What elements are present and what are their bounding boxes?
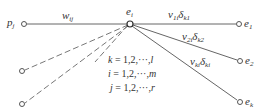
label-p-j: pj: [7, 17, 14, 30]
equation-k: k = 1,2,···,l: [108, 53, 153, 66]
node-e-i: [127, 21, 133, 27]
equation-j: j = 1,2,···,r: [110, 81, 155, 94]
node-p-j: [22, 22, 27, 27]
label-e-2: e2: [245, 55, 253, 68]
label-e-i: ei: [126, 6, 133, 19]
label-e-1: e1: [244, 18, 252, 31]
label-v-2i-delta-k2: v2iδk2: [182, 31, 204, 44]
node-e-1: [237, 22, 242, 27]
node-left-b: [20, 102, 25, 107]
label-w-ij: wij: [62, 10, 73, 23]
label-v-ki-delta-ki: vkiδki: [190, 56, 210, 69]
equation-i: i = 1,2,···,m: [108, 67, 156, 80]
node-left-a: [20, 69, 25, 74]
label-v-1i-delta-k1: v1iδk1: [168, 9, 190, 22]
node-e-k: [238, 100, 243, 105]
node-e-2: [238, 59, 243, 64]
label-e-k: ek: [245, 96, 253, 109]
